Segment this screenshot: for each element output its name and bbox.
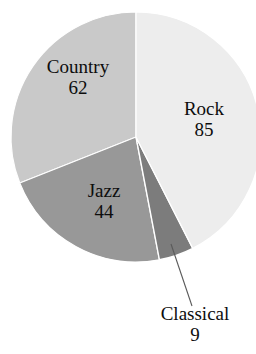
pie-chart-canvas (0, 0, 256, 354)
pie-chart: Country 62 Rock 85 Jazz 44 Classical 9 (0, 0, 256, 354)
